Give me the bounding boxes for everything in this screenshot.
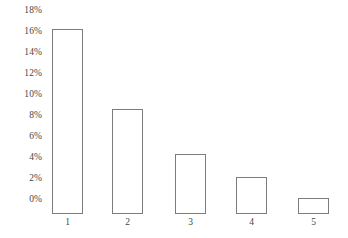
bar-4 xyxy=(236,177,267,214)
bar-1 xyxy=(52,29,83,214)
x-tick-label: 4 xyxy=(236,217,267,228)
bar-2 xyxy=(112,109,143,214)
bar-3 xyxy=(175,154,206,214)
x-tick-label: 1 xyxy=(52,217,83,228)
x-tick-label: 5 xyxy=(298,217,329,228)
bar-5 xyxy=(298,198,329,214)
x-tick-label: 2 xyxy=(112,217,143,228)
bar-chart: 18% 16% 14% 12% 10% 8% 6% 4% 2% 0% 1 2 3… xyxy=(0,0,348,238)
x-tick-label: 3 xyxy=(175,217,206,228)
plot-area: 1 2 3 4 5 xyxy=(0,0,348,238)
